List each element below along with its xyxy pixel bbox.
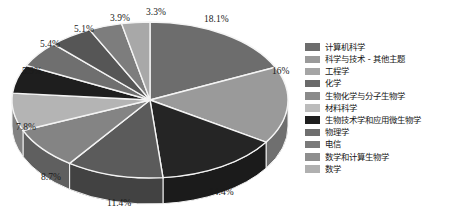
legend-item[interactable]: 生物技术学和应用微生物学	[305, 114, 463, 126]
pie-svg	[0, 0, 300, 218]
slice-label-3: 11.4%	[107, 198, 131, 208]
pie-chart-figure: 18.1% 16% 14.4% 11.4% 8.7% 7.8% 5.9% 5.4…	[0, 0, 463, 218]
legend-color-swatch	[305, 104, 320, 112]
legend-color-swatch	[305, 116, 320, 124]
legend-item-label: 生物技术学和应用微生物学	[325, 116, 421, 124]
legend-color-swatch	[305, 165, 320, 173]
legend-item[interactable]: 计算机科学	[305, 41, 463, 53]
slice-label-9: 3.9%	[110, 13, 130, 23]
legend-item-label: 工程学	[325, 67, 349, 75]
legend-item[interactable]: 化学	[305, 78, 463, 90]
legend-item-label: 数学和计算生物学	[325, 153, 389, 161]
legend-item[interactable]: 数学	[305, 163, 463, 175]
legend-color-swatch	[305, 68, 320, 76]
legend-item-label: 数学	[325, 165, 341, 173]
legend-color-swatch	[305, 43, 320, 51]
legend-color-swatch	[305, 153, 320, 161]
slice-label-10: 3.3%	[146, 7, 166, 17]
slice-label-4: 8.7%	[41, 172, 61, 182]
legend-color-swatch	[305, 141, 320, 149]
legend-color-swatch	[305, 56, 320, 64]
legend-item[interactable]: 数学和计算生物学	[305, 151, 463, 163]
legend-item-label: 物理学	[325, 128, 349, 136]
legend-item-label: 计算机科学	[325, 43, 365, 51]
legend-item-label: 电信	[325, 140, 341, 148]
legend-item[interactable]: 科学与技术 - 其他主题	[305, 53, 463, 65]
legend-item[interactable]: 电信	[305, 139, 463, 151]
pie-plot-area	[0, 0, 300, 218]
slice-label-0: 18.1%	[204, 14, 229, 24]
legend-item-label: 材料科学	[325, 104, 357, 112]
legend-color-swatch	[305, 80, 320, 88]
legend-item[interactable]: 物理学	[305, 126, 463, 138]
legend-color-swatch	[305, 129, 320, 137]
legend-item[interactable]: 材料科学	[305, 102, 463, 114]
legend-item-label: 科学与技术 - 其他主题	[325, 55, 405, 63]
slice-label-2: 14.4%	[209, 187, 234, 197]
legend-color-swatch	[305, 92, 320, 100]
slice-label-6: 5.9%	[22, 66, 42, 76]
slice-label-1: 16%	[272, 66, 289, 76]
legend-item-label: 化学	[325, 79, 341, 87]
slice-label-7: 5.4%	[40, 39, 60, 49]
slice-label-8: 5.1%	[74, 24, 94, 34]
legend-item[interactable]: 生物化学与分子生物学	[305, 90, 463, 102]
slice-label-5: 7.8%	[16, 122, 36, 132]
legend-item[interactable]: 工程学	[305, 65, 463, 77]
chart-legend: 计算机科学科学与技术 - 其他主题工程学化学生物化学与分子生物学材料科学生物技术…	[305, 41, 463, 175]
legend-item-label: 生物化学与分子生物学	[325, 92, 405, 100]
